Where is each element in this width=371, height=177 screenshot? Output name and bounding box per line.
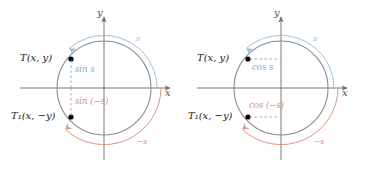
- negative-arc-minus-s: [66, 88, 162, 145]
- negative-arc-minus-s: [243, 88, 339, 145]
- x-axis: [197, 85, 348, 90]
- cosine-panel: y x T(x, y) T₁(x, −y) cos s cos (−s) s −…: [185, 0, 371, 177]
- x-axis: [20, 85, 171, 90]
- sine-panel-canvas: [0, 0, 186, 177]
- positive-arc-s: [69, 35, 157, 88]
- trig-unit-circle-figure: y x T(x, y) T₁(x, −y) sin s sin (−s) s −…: [0, 0, 371, 177]
- cosine-panel-canvas: [185, 0, 371, 177]
- positive-arc-s: [246, 35, 334, 88]
- sine-panel: y x T(x, y) T₁(x, −y) sin s sin (−s) s −…: [0, 0, 186, 177]
